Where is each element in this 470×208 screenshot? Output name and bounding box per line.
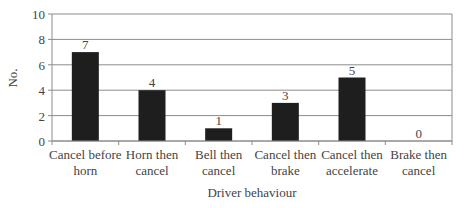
- y-tick-label: 2: [39, 109, 46, 124]
- bar: [139, 90, 166, 141]
- x-axis-category-labels: Cancel beforehornHorn thencancelBell the…: [49, 147, 447, 178]
- bar: [339, 78, 366, 142]
- y-tick-label: 0: [39, 134, 46, 149]
- bar-value-label: 3: [282, 88, 289, 103]
- y-tick-label: 6: [39, 58, 46, 73]
- x-category-label: Brake then: [390, 147, 447, 162]
- bar-value-label: 1: [215, 113, 222, 128]
- x-category-label: Horn then: [126, 147, 179, 162]
- bar-value-label: 7: [82, 37, 89, 52]
- x-category-label: Cancel then: [321, 147, 383, 162]
- y-tick-label: 8: [39, 32, 46, 47]
- bar-value-label: 5: [349, 63, 356, 78]
- y-tick-label: 4: [39, 83, 46, 98]
- x-category-label: accelerate: [326, 163, 378, 178]
- x-category-label: cancel: [135, 163, 169, 178]
- bar: [72, 52, 99, 141]
- chart-canvas: 0246810 741350 Cancel beforehornHorn the…: [0, 0, 470, 208]
- y-axis-ticks: 0246810: [32, 7, 52, 149]
- x-axis-title: Driver behaviour: [207, 185, 297, 200]
- x-category-label: Cancel before: [49, 147, 122, 162]
- x-category-label: Cancel then: [254, 147, 316, 162]
- x-category-label: horn: [73, 163, 97, 178]
- gridlines: [52, 14, 452, 141]
- bar-value-label: 4: [149, 75, 156, 90]
- x-axis-ticks: [52, 141, 452, 145]
- y-axis-title: No.: [5, 68, 20, 87]
- bar: [205, 128, 232, 141]
- bars: 741350: [72, 37, 422, 141]
- bar: [272, 103, 299, 141]
- x-category-label: Bell then: [195, 147, 243, 162]
- bar-chart: 0246810 741350 Cancel beforehornHorn the…: [0, 0, 470, 208]
- x-category-label: cancel: [202, 163, 236, 178]
- x-category-label: brake: [271, 163, 300, 178]
- y-tick-label: 10: [32, 7, 45, 22]
- bar-value-label: 0: [415, 126, 422, 141]
- x-category-label: cancel: [402, 163, 436, 178]
